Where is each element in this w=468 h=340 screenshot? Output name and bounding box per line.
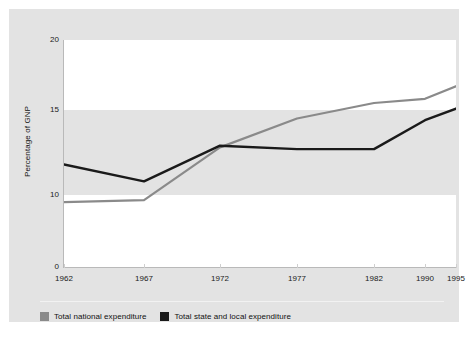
x-tick-mark-1990	[425, 264, 426, 268]
x-tick-mark-1982	[374, 264, 375, 268]
y-tick-label-15: 15	[41, 106, 59, 114]
series-line-total-national-expenditure	[64, 86, 456, 202]
y-axis-title: Percentage of GNP	[23, 77, 32, 207]
x-tick-label-1995: 1995	[436, 274, 468, 283]
legend-swatch-icon	[40, 312, 49, 321]
legend-divider	[40, 301, 444, 302]
chart-panel: Percentage of GNP 0101520 19621967197219…	[9, 9, 459, 322]
y-axis-tick-labels: 0101520	[39, 9, 59, 340]
x-tick-label-1967: 1967	[124, 274, 164, 283]
y-tick-label-10: 10	[41, 191, 59, 199]
series-line-total-state-and-local-expenditure	[64, 109, 456, 182]
legend-label: Total state and local expenditure	[174, 312, 290, 321]
x-tick-mark-1972	[220, 264, 221, 268]
bottom-caption	[170, 330, 466, 340]
legend-item-0[interactable]: Total national expenditure	[40, 312, 146, 321]
chart-legend: Total national expenditureTotal state an…	[40, 309, 291, 323]
x-tick-mark-1977	[297, 264, 298, 268]
x-tick-label-1977: 1977	[277, 274, 317, 283]
y-tick-label-0: 0	[41, 263, 59, 271]
x-axis-line	[64, 267, 456, 268]
legend-label: Total national expenditure	[54, 312, 146, 321]
x-tick-label-1982: 1982	[354, 274, 394, 283]
series-lines	[64, 40, 456, 267]
figure-root: Percentage of GNP 0101520 19621967197219…	[0, 0, 468, 340]
x-tick-label-1972: 1972	[200, 274, 240, 283]
x-tick-mark-1962	[64, 264, 65, 268]
x-tick-label-1962: 1962	[44, 274, 84, 283]
legend-item-1[interactable]: Total state and local expenditure	[160, 312, 290, 321]
top-caption	[18, 0, 448, 9]
x-tick-mark-1967	[144, 264, 145, 268]
legend-swatch-icon	[160, 312, 169, 321]
x-tick-mark-1995	[456, 264, 457, 268]
plot-area	[64, 40, 456, 267]
y-tick-label-20: 20	[41, 36, 59, 44]
